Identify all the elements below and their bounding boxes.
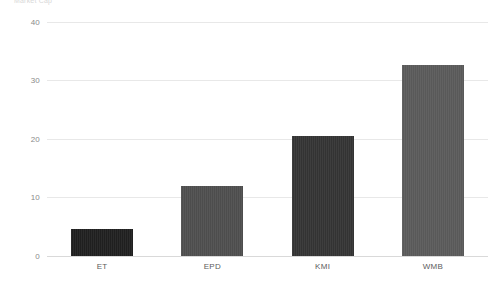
bar-et — [71, 229, 133, 256]
bar-epd — [181, 186, 243, 256]
chart-caption: Market Cap — [14, 0, 52, 6]
x-axis-tick-label-et: ET — [97, 262, 108, 271]
y-axis-tick-label: 10 — [31, 193, 40, 202]
bar-texture — [402, 65, 464, 256]
x-axis-tick-labels: ETEPDKMIWMB — [47, 262, 488, 278]
x-axis-tick-label-epd: EPD — [204, 262, 221, 271]
plot-area: 010203040 — [47, 10, 488, 256]
bar-kmi — [292, 136, 354, 256]
x-axis-tick-label-wmb: WMB — [423, 262, 443, 271]
y-axis-tick-label: 30 — [31, 76, 40, 85]
y-axis-tick-label: 20 — [31, 134, 40, 143]
y-axis-tick-label: 40 — [31, 17, 40, 26]
bar-texture — [292, 136, 354, 256]
gridline-0: 0 — [47, 256, 488, 257]
x-axis-tick-label-kmi: KMI — [315, 262, 330, 271]
bars-group — [47, 10, 488, 256]
y-axis-tick-label: 0 — [35, 252, 40, 261]
bar-chart: Market Cap 010203040 ETEPDKMIWMB — [0, 0, 495, 293]
bar-texture — [181, 186, 243, 256]
bar-wmb — [402, 65, 464, 256]
bar-texture — [71, 229, 133, 256]
